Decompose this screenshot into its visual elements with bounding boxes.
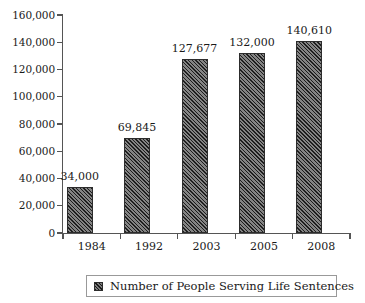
x-axis-tick-mark [62,233,63,239]
y-axis-tick-mark [57,69,63,70]
y-axis-tick-label: 60,000 [3,146,55,157]
y-axis-tick-label: 120,000 [3,64,55,75]
x-axis-tick-label: 1984 [62,241,122,253]
bar-value-label: 127,677 [165,43,225,55]
x-axis-tick-label: 1992 [119,241,179,253]
y-axis-tick-mark [57,42,63,43]
y-axis-tick-label: 160,000 [3,10,55,21]
bar [296,41,322,233]
x-axis-tick-mark [349,233,350,239]
y-axis-tick-mark [57,14,63,15]
bar [182,59,208,233]
bar-value-label: 132,000 [222,37,282,49]
x-axis-tick-mark [292,233,293,239]
bar [239,53,265,233]
y-axis-tick-mark [57,96,63,97]
y-axis-tick-mark [57,205,63,206]
bar-value-label: 34,000 [50,171,110,183]
legend-label: Number of People Serving Life Sentences [110,280,354,293]
x-axis-line [62,233,350,234]
y-axis-tick-label: 0 [3,228,55,239]
y-axis-tick-label: 80,000 [3,119,55,130]
y-axis-tick-label: 140,000 [3,37,55,48]
x-axis-tick-label: 2003 [177,241,237,253]
x-axis-tick-mark [177,233,178,239]
y-axis-tick-label: 100,000 [3,91,55,102]
x-axis-tick-mark [120,233,121,239]
x-axis-tick-label: 2008 [291,241,351,253]
bar-value-label: 69,845 [107,122,167,134]
y-axis-labels: 020,00040,00060,00080,000100,000120,0001… [0,0,55,303]
x-axis-tick-label: 2005 [234,241,294,253]
bar-chart: 020,00040,00060,00080,000100,000120,0001… [0,0,365,303]
x-axis-tick-mark [235,233,236,239]
legend-swatch-icon [94,282,103,291]
bar [67,187,93,233]
bar-value-label: 140,610 [279,25,339,37]
y-axis-tick-label: 40,000 [3,173,55,184]
chart-legend: Number of People Serving Life Sentences [86,275,337,297]
y-axis-tick-mark [57,123,63,124]
y-axis-tick-label: 20,000 [3,200,55,211]
y-axis-tick-mark [57,151,63,152]
bar [124,138,150,233]
